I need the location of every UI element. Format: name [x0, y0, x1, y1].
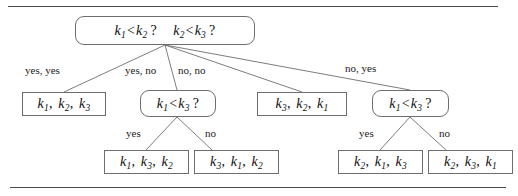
edge-d-to-leaf-g — [380, 117, 410, 150]
node-decision-d-label: k1<k3? — [387, 97, 433, 111]
node-leaf-f-label: k3, k1, k2 — [208, 155, 265, 169]
edge-label-b-yes: yes — [126, 128, 141, 139]
edge-label-d-yes: yes — [359, 128, 374, 139]
node-leaf-e[interactable]: k1, k3, k2 — [104, 150, 189, 174]
node-leaf-h[interactable]: k2, k3, k1 — [428, 150, 513, 174]
node-leaf-e-label: k1, k3, k2 — [118, 155, 175, 169]
node-leaf-g-label: k2, k1, k3 — [352, 155, 409, 169]
decision-tree-figure: k1<k2? k2<k3? k1, k2, k3 k1<k3? k3, k2, … — [0, 0, 518, 196]
node-decision-b-label: k1<k3? — [155, 97, 201, 111]
edge-label-yes-no: yes, no — [125, 65, 156, 76]
node-leaf-a-label: k1, k2, k3 — [36, 97, 93, 111]
node-root[interactable]: k1<k2? k2<k3? — [75, 16, 255, 45]
edge-label-yes-yes: yes, yes — [25, 65, 60, 76]
node-leaf-g[interactable]: k2, k1, k3 — [338, 150, 423, 174]
edge-label-no-yes: no, yes — [345, 63, 376, 74]
edge-root-to-decision-b — [165, 45, 177, 90]
edge-label-d-no: no — [439, 128, 450, 139]
node-leaf-a[interactable]: k1, k2, k3 — [22, 92, 106, 116]
node-leaf-c[interactable]: k3, k2, k1 — [257, 92, 347, 116]
edge-label-no-no: no, no — [178, 65, 206, 76]
node-leaf-c-label: k3, k2, k1 — [274, 97, 331, 111]
node-leaf-f[interactable]: k3, k1, k2 — [194, 150, 279, 174]
node-root-label: k1<k2? k2<k3? — [113, 24, 218, 38]
edge-label-b-no: no — [205, 128, 216, 139]
node-decision-b[interactable]: k1<k3? — [140, 90, 216, 117]
node-leaf-h-label: k2, k3, k1 — [442, 155, 499, 169]
edge-b-to-leaf-e — [146, 117, 177, 150]
node-decision-d[interactable]: k1<k3? — [372, 90, 449, 117]
